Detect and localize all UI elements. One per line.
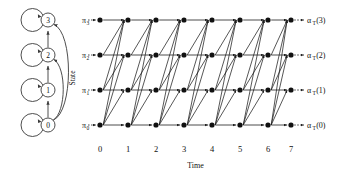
trellis-node-t0-s3[interactable] bbox=[97, 17, 102, 22]
trellis-node-t3-s3[interactable] bbox=[181, 17, 186, 22]
time-tick-2: 2 bbox=[154, 144, 158, 154]
alpha-label-state-2: αT(2) bbox=[307, 51, 326, 61]
time-tick-5: 5 bbox=[238, 144, 242, 154]
trellis-node-t5-s2[interactable] bbox=[237, 52, 242, 57]
time-axis-title: Time bbox=[187, 161, 204, 170]
trellis-node-t3-s1[interactable] bbox=[181, 87, 186, 92]
trellis-node-t4-s1[interactable] bbox=[209, 87, 214, 92]
alpha-label-state-3: αT(3) bbox=[307, 16, 326, 26]
time-tick-6: 6 bbox=[266, 144, 270, 154]
self-loop-state-0 bbox=[21, 114, 44, 137]
trellis-node-t0-s1[interactable] bbox=[97, 87, 102, 92]
self-loop-state-3 bbox=[21, 9, 44, 32]
trellis-node-t7-s3[interactable] bbox=[288, 17, 293, 22]
trellis-node-t7-s0[interactable] bbox=[288, 122, 293, 127]
alpha-label-base-3: α bbox=[307, 121, 312, 130]
trellis-node-t5-s3[interactable] bbox=[237, 17, 242, 22]
trellis-node-t1-s3[interactable] bbox=[125, 17, 130, 22]
trellis-node-t0-s0[interactable] bbox=[97, 122, 102, 127]
trellis-diagram bbox=[88, 17, 304, 127]
trellis-node-t0-s2[interactable] bbox=[97, 52, 102, 57]
alpha-label-state-1: αT(1) bbox=[307, 86, 326, 96]
pi-label-3: π3 bbox=[82, 16, 90, 26]
trellis-node-t2-s2[interactable] bbox=[153, 52, 158, 57]
self-loop-arrowhead-state-3 bbox=[38, 14, 42, 18]
trellis-node-t4-s0[interactable] bbox=[209, 122, 214, 127]
time-tick-0: 0 bbox=[98, 144, 102, 154]
trellis-node-t6-s3[interactable] bbox=[265, 17, 270, 22]
state-label-0: 0 bbox=[46, 121, 50, 130]
pi-label-0: π0 bbox=[82, 121, 90, 131]
trellis-node-t1-s2[interactable] bbox=[125, 52, 130, 57]
pi-label-base-0: π bbox=[82, 121, 86, 130]
figure-canvas: 3210 Stateπ3π2π1π0αT(3)αT(2)αT(1)αT(0)01… bbox=[0, 0, 343, 176]
self-loop-state-2 bbox=[21, 44, 44, 67]
pi-label-base-1: π bbox=[82, 86, 86, 95]
time-tick-4: 4 bbox=[210, 144, 215, 154]
trellis-node-t2-s3[interactable] bbox=[153, 17, 158, 22]
trellis-edge-t1-s0-to-s3 bbox=[131, 20, 152, 125]
self-loop-arrowhead-state-1 bbox=[38, 84, 42, 88]
pi-label-subscript-2: 2 bbox=[87, 55, 90, 61]
self-loop-arrowhead-state-2 bbox=[38, 49, 42, 53]
figure-root: 3210 Stateπ3π2π1π0αT(3)αT(2)αT(1)αT(0)01… bbox=[0, 0, 343, 176]
self-loop-state-1 bbox=[21, 79, 44, 102]
state-machine-diagram: 3210 bbox=[21, 9, 68, 137]
alpha-label-base-0: α bbox=[307, 16, 312, 25]
trellis-edge-t0-s0-to-s3 bbox=[103, 20, 124, 125]
time-tick-1: 1 bbox=[126, 144, 130, 154]
trellis-node-t4-s3[interactable] bbox=[209, 17, 214, 22]
state-label-2: 2 bbox=[46, 51, 50, 60]
trellis-node-t5-s0[interactable] bbox=[237, 122, 242, 127]
alpha-label-arg-0: (3) bbox=[316, 16, 326, 25]
alpha-label-base-1: α bbox=[307, 51, 312, 60]
self-loop-arrowhead-state-0 bbox=[38, 119, 42, 123]
trellis-node-t2-s1[interactable] bbox=[153, 87, 158, 92]
trellis-node-t7-s1[interactable] bbox=[288, 87, 293, 92]
pi-label-subscript-3: 3 bbox=[87, 20, 90, 26]
alpha-label-arg-2: (1) bbox=[316, 86, 326, 95]
pi-label-base-3: π bbox=[82, 16, 86, 25]
trellis-node-t6-s2[interactable] bbox=[265, 52, 270, 57]
trellis-node-t2-s0[interactable] bbox=[153, 122, 158, 127]
alpha-label-arg-3: (0) bbox=[316, 121, 326, 130]
trellis-node-t6-s1[interactable] bbox=[265, 87, 270, 92]
state-axis-title: State bbox=[68, 70, 77, 86]
trellis-node-t1-s1[interactable] bbox=[125, 87, 130, 92]
pi-label-2: π2 bbox=[82, 51, 90, 61]
trellis-edge-t6-s0-to-s3 bbox=[271, 20, 287, 125]
state-label-3: 3 bbox=[46, 16, 50, 25]
alpha-label-base-2: α bbox=[307, 86, 312, 95]
trellis-node-t7-s2[interactable] bbox=[288, 52, 293, 57]
pi-label-subscript-0: 0 bbox=[87, 125, 90, 131]
alpha-label-state-0: αT(0) bbox=[307, 121, 326, 131]
trellis-node-t1-s0[interactable] bbox=[125, 122, 130, 127]
trellis-node-t6-s0[interactable] bbox=[265, 122, 270, 127]
pi-label-1: π1 bbox=[82, 86, 90, 96]
trellis-edge-t2-s0-to-s3 bbox=[159, 20, 180, 125]
trellis-edge-t4-s0-to-s3 bbox=[215, 20, 236, 125]
trellis-edge-t3-s0-to-s3 bbox=[187, 20, 208, 125]
trellis-node-t5-s1[interactable] bbox=[237, 87, 242, 92]
trellis-edge-t5-s0-to-s3 bbox=[243, 20, 264, 125]
pi-label-base-2: π bbox=[82, 51, 86, 60]
alpha-label-arg-1: (2) bbox=[316, 51, 326, 60]
pi-label-subscript-1: 1 bbox=[87, 90, 90, 96]
time-tick-7: 7 bbox=[289, 144, 293, 154]
trellis-node-t3-s2[interactable] bbox=[181, 52, 186, 57]
time-tick-3: 3 bbox=[182, 144, 186, 154]
state-label-1: 1 bbox=[46, 86, 50, 95]
trellis-node-t3-s0[interactable] bbox=[181, 122, 186, 127]
trellis-node-t4-s2[interactable] bbox=[209, 52, 214, 57]
